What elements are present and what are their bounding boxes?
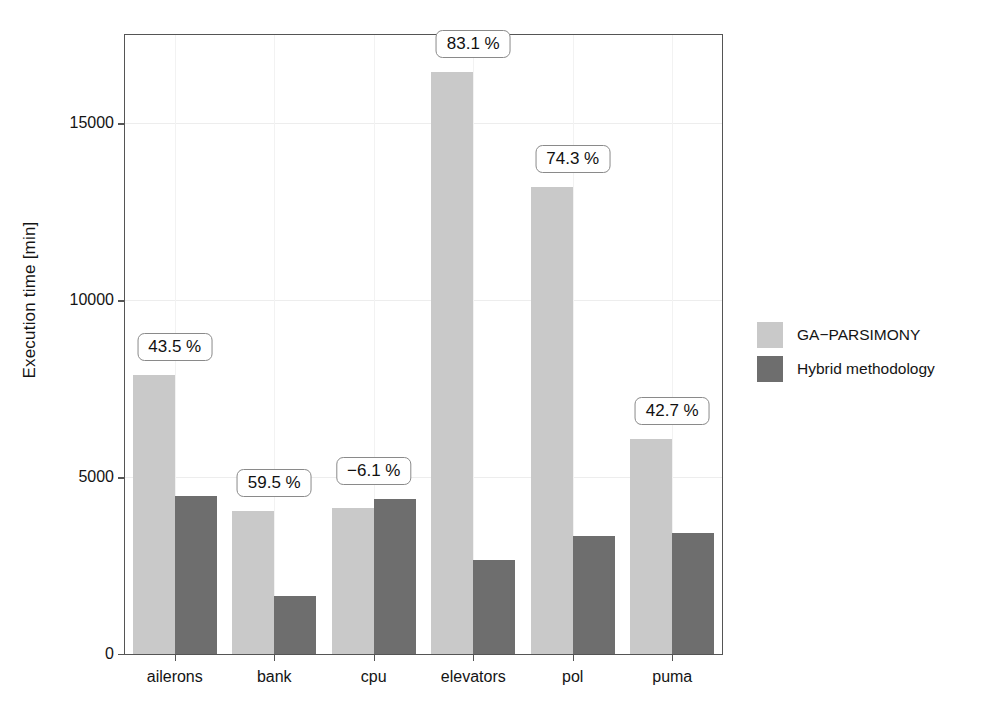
x-axis-tick	[573, 654, 574, 661]
y-gridline	[125, 123, 722, 124]
plot-area: 050001000015000ailerons43.5 %bank59.5 %c…	[124, 34, 723, 655]
bar-bank-ga-parsimony	[232, 511, 274, 654]
y-axis-tick	[118, 477, 125, 478]
x-axis-tick-label-pol: pol	[562, 668, 583, 686]
legend-label-hybrid-methodology: Hybrid methodology	[797, 360, 935, 378]
x-axis-tick	[374, 654, 375, 661]
bar-ailerons-ga-parsimony	[133, 375, 175, 654]
bar-puma-ga-parsimony	[630, 439, 672, 654]
legend-swatch-hybrid-methodology	[757, 356, 783, 382]
legend-item-ga-parsimony: GA−PARSIMONY	[757, 318, 982, 352]
bar-elevators-hybrid-methodology	[473, 560, 515, 654]
bar-chart-figure: Execution time [min] 050001000015000aile…	[0, 0, 986, 723]
bar-puma-hybrid-methodology	[672, 533, 714, 654]
x-axis-tick-label-cpu: cpu	[361, 668, 387, 686]
y-gridline	[125, 300, 722, 301]
legend-label-ga-parsimony: GA−PARSIMONY	[797, 326, 920, 344]
chart-legend: GA−PARSIMONY Hybrid methodology	[757, 318, 982, 386]
bar-cpu-ga-parsimony	[332, 508, 374, 654]
y-axis-title: Execution time [min]	[20, 200, 40, 400]
y-axis-tick-label: 0	[105, 645, 114, 663]
legend-item-hybrid-methodology: Hybrid methodology	[757, 352, 982, 386]
x-axis-tick	[473, 654, 474, 661]
x-axis-tick-label-elevators: elevators	[441, 668, 506, 686]
x-axis-tick	[175, 654, 176, 661]
y-axis-tick	[118, 654, 125, 655]
percent-label-puma: 42.7 %	[635, 397, 710, 425]
bar-cpu-hybrid-methodology	[374, 499, 416, 654]
x-axis-tick-label-bank: bank	[257, 668, 292, 686]
bar-pol-ga-parsimony	[531, 187, 573, 654]
percent-label-pol: 74.3 %	[535, 145, 610, 173]
y-axis-tick	[118, 300, 125, 301]
bar-elevators-ga-parsimony	[431, 72, 473, 654]
y-axis-tick-label: 15000	[70, 114, 115, 132]
x-axis-tick	[672, 654, 673, 661]
percent-label-ailerons: 43.5 %	[137, 333, 212, 361]
x-axis-tick	[274, 654, 275, 661]
bar-ailerons-hybrid-methodology	[175, 496, 217, 654]
x-axis-tick-label-puma: puma	[652, 668, 692, 686]
y-axis-tick	[118, 123, 125, 124]
percent-label-elevators: 83.1 %	[436, 30, 511, 58]
y-axis-tick-label: 5000	[78, 468, 114, 486]
y-axis-tick-label: 10000	[70, 291, 115, 309]
legend-swatch-ga-parsimony	[757, 322, 783, 348]
x-axis-tick-label-ailerons: ailerons	[147, 668, 203, 686]
bar-pol-hybrid-methodology	[573, 536, 615, 654]
percent-label-bank: 59.5 %	[237, 469, 312, 497]
bar-bank-hybrid-methodology	[274, 596, 316, 654]
percent-label-cpu: −6.1 %	[336, 457, 411, 485]
